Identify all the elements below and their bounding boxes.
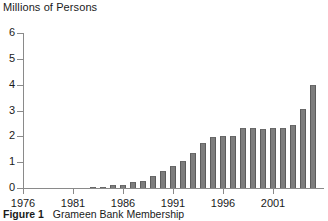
bar xyxy=(200,143,206,188)
x-axis-tick xyxy=(173,188,174,194)
figure-caption-label: Figure 1 xyxy=(3,208,44,220)
x-axis-tick-label: 1996 xyxy=(211,197,235,209)
figure-caption: Figure 1Grameen Bank Membership xyxy=(3,208,184,220)
y-axis-tick-label: 6 xyxy=(1,27,15,38)
bar xyxy=(280,128,286,188)
bar xyxy=(250,128,256,188)
chart-axis-title: Millions of Persons xyxy=(3,1,97,13)
figure-grameen-bank-membership: Millions of Persons 0123456 197619811986… xyxy=(0,0,328,221)
bar xyxy=(240,128,246,188)
x-axis-tick xyxy=(123,188,124,194)
bar xyxy=(140,181,146,188)
y-axis-tick-label: 2 xyxy=(1,130,15,141)
x-axis-tick xyxy=(223,188,224,194)
x-axis-tick xyxy=(73,188,74,194)
x-axis-tick xyxy=(273,188,274,194)
y-axis-tick-label: 3 xyxy=(1,105,15,116)
bar xyxy=(210,137,216,188)
bar xyxy=(300,109,306,188)
bar xyxy=(160,171,166,188)
bar xyxy=(170,166,176,188)
bar xyxy=(120,185,126,188)
bar-series xyxy=(23,33,324,188)
y-axis-tick-label: 5 xyxy=(1,53,15,64)
x-axis-tick xyxy=(23,188,24,194)
bar xyxy=(110,185,116,188)
bar xyxy=(230,136,236,188)
bar xyxy=(220,136,226,188)
bar xyxy=(260,129,266,188)
bar xyxy=(180,161,186,188)
x-axis-tick-label: 2001 xyxy=(261,197,285,209)
figure-caption-text: Grameen Bank Membership xyxy=(53,208,184,220)
bar xyxy=(100,187,106,188)
bar xyxy=(310,85,316,188)
y-axis-tick-label: 0 xyxy=(1,182,15,193)
y-axis-tick-label: 4 xyxy=(1,79,15,90)
bar xyxy=(190,153,196,188)
y-axis-tick-label: 1 xyxy=(1,156,15,167)
bar xyxy=(130,182,136,188)
bar xyxy=(270,128,276,188)
bar xyxy=(90,187,96,188)
bar xyxy=(150,176,156,188)
bar xyxy=(290,125,296,188)
